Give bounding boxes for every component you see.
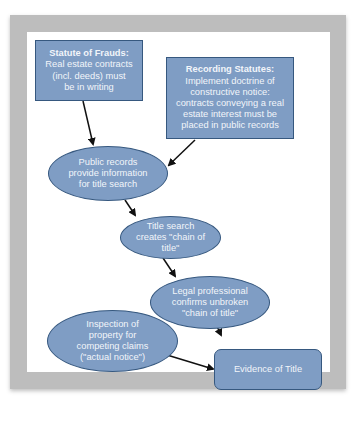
node-line: for title search <box>79 179 137 190</box>
node-line: Real estate contracts <box>45 59 132 70</box>
node-inspection: Inspection of property for competing cla… <box>47 310 178 372</box>
arrow-search-to-legal <box>163 258 175 276</box>
node-line: estate interest must be <box>183 109 277 120</box>
node-line: Legal professional <box>172 286 247 297</box>
node-line: contracts conveying a real <box>176 98 284 109</box>
node-line: Implement doctrine of <box>185 76 274 87</box>
node-title: Recording Statutes: <box>186 64 274 75</box>
arrow-records-to-search <box>125 200 135 215</box>
node-title: Statute of Frauds: <box>49 48 129 59</box>
node-statute-of-frauds: Statute of Frauds: Real estate contracts… <box>35 40 143 101</box>
node-line: "chain of title" <box>182 308 238 319</box>
node-public-records: Public records provide information for t… <box>48 146 168 201</box>
node-line: placed in public records <box>181 120 279 131</box>
node-evidence-of-title: Evidence of Title <box>214 349 322 390</box>
node-line: Evidence of Title <box>234 364 302 375</box>
node-line: Inspection of <box>86 319 139 330</box>
node-line: Public records <box>79 157 138 168</box>
arrow-frauds-to-records <box>83 101 93 144</box>
node-line: competing claims <box>77 341 149 352</box>
node-line: property for <box>89 330 137 341</box>
node-line: creates "chain of <box>136 232 205 243</box>
node-recording-statutes: Recording Statutes: Implement doctrine o… <box>166 57 294 139</box>
node-line: ("actual notice") <box>80 352 145 363</box>
node-line: title" <box>162 243 180 254</box>
arrow-recording-to-records <box>169 140 195 165</box>
node-line: be in writing <box>64 82 114 93</box>
arrow-inspection-to-evidence <box>167 355 213 369</box>
node-line: Title search <box>147 221 195 232</box>
node-legal-professional: Legal professional confirms unbroken "ch… <box>150 276 270 329</box>
node-line: confirms unbroken <box>172 297 248 308</box>
node-line: provide information <box>68 168 147 179</box>
node-line: (incl. deeds) must <box>52 71 125 82</box>
node-line: constructive notice: <box>190 87 270 98</box>
node-title-search: Title search creates "chain of title" <box>120 216 221 259</box>
